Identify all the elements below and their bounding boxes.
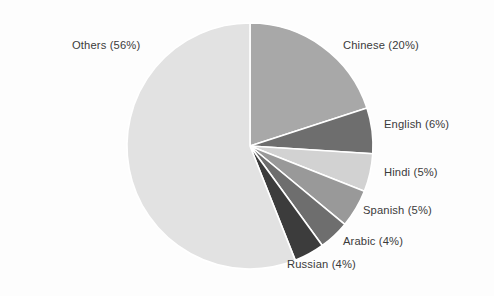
pie-label-hindi: Hindi (5%) [384, 166, 438, 179]
pie-label-chinese: Chinese (20%) [343, 39, 419, 52]
pie-label-russian: Russian (4%) [287, 258, 356, 271]
pie-label-english: English (6%) [384, 118, 449, 131]
pie-label-others: Others (56%) [72, 39, 140, 52]
pie-chart: Chinese (20%) English (6%) Hindi (5%) Sp… [0, 0, 494, 296]
pie-label-arabic: Arabic (4%) [343, 235, 403, 248]
pie-slice-group [127, 23, 373, 269]
pie-label-spanish: Spanish (5%) [363, 204, 432, 217]
